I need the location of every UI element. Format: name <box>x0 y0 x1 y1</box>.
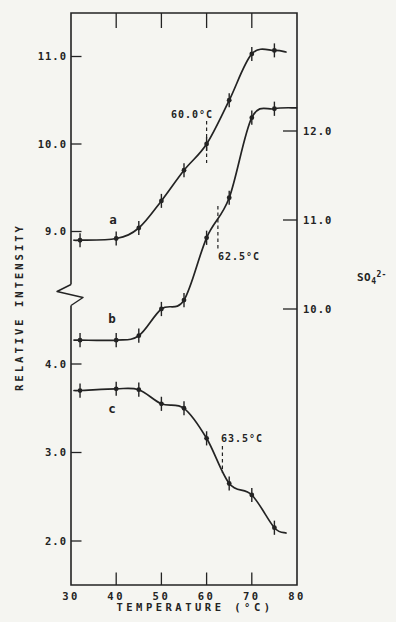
y-axis-left-tick-label: 2.0 <box>45 535 67 547</box>
y-axis-left-tick-label: 10.0 <box>38 138 67 150</box>
y-axis-left-tick-label: 11.0 <box>38 50 67 62</box>
data-point-a-40 <box>114 236 119 241</box>
x-axis-tick-label: 80 <box>288 590 306 602</box>
data-point-c-75 <box>272 525 277 530</box>
y-axis-title: RELATIVE INTENSITY <box>13 223 25 391</box>
data-point-b-55 <box>182 298 187 303</box>
data-point-a-60 <box>204 142 209 147</box>
y-axis-left-tick-label: 3.0 <box>45 446 67 458</box>
y-axis-right-tick-label: 12.0 <box>303 125 332 137</box>
chart-canvas: 30405060708011.010.09.04.03.02.012.011.0… <box>0 0 396 622</box>
chemical-superscript: 2- <box>377 270 387 279</box>
data-point-a-70 <box>249 51 254 56</box>
data-point-a-75 <box>272 48 277 53</box>
data-point-a-50 <box>159 198 164 203</box>
transition-annotation-b: 62.5°C <box>218 251 260 262</box>
right-axis-chemical-label: SO42- <box>357 270 386 286</box>
curve-label-c: c <box>108 401 116 416</box>
transition-annotation-a: 60.0°C <box>171 109 213 120</box>
data-point-b-40 <box>114 338 119 343</box>
data-point-b-50 <box>159 307 164 312</box>
curve-label-a: a <box>109 212 117 227</box>
y-axis-left-tick-label: 4.0 <box>45 358 67 370</box>
data-point-c-55 <box>182 406 187 411</box>
y-axis-right-tick-label: 11.0 <box>303 214 332 226</box>
data-point-c-40 <box>114 386 119 391</box>
x-axis-tick-label: 30 <box>62 590 80 602</box>
data-point-c-60 <box>204 436 209 441</box>
data-point-c-32 <box>78 388 83 393</box>
data-point-a-45 <box>136 226 141 231</box>
transition-annotation-c: 63.5°C <box>221 433 263 444</box>
data-point-b-70 <box>249 115 254 120</box>
data-point-b-32 <box>78 338 83 343</box>
y-axis-left-tick-label: 9.0 <box>45 225 67 237</box>
y-axis-right-tick-label: 10.0 <box>303 303 332 315</box>
curve-c <box>74 388 286 533</box>
data-point-c-45 <box>136 387 141 392</box>
axis-break-icon <box>57 285 83 306</box>
curve-label-b: b <box>108 311 116 326</box>
curve-b <box>74 108 297 341</box>
data-point-b-75 <box>272 106 277 111</box>
chemical-base: SO <box>357 271 371 284</box>
data-point-c-70 <box>249 493 254 498</box>
curve-a <box>74 49 286 240</box>
data-point-c-65 <box>227 481 232 486</box>
data-point-a-65 <box>227 98 232 103</box>
data-point-b-45 <box>136 333 141 338</box>
figure-scan: 30405060708011.010.09.04.03.02.012.011.0… <box>0 0 396 622</box>
data-point-c-50 <box>159 401 164 406</box>
data-point-b-60 <box>204 235 209 240</box>
x-axis-title: TEMPERATURE (°C) <box>116 601 273 613</box>
data-point-b-65 <box>227 195 232 200</box>
data-point-a-32 <box>78 238 83 243</box>
data-point-a-55 <box>182 168 187 173</box>
